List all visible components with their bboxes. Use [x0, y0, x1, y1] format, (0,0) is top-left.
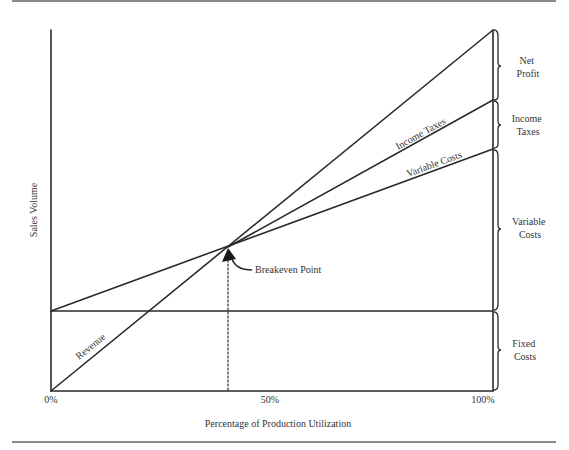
revenue-line [51, 30, 493, 391]
fixed-costs-bracket-label: Fixed Costs [512, 338, 537, 362]
income-taxes-line-label: Income Taxes [394, 115, 448, 152]
income-taxes-brace-icon [494, 101, 501, 148]
x-axis-title: Percentage of Production Utilization [205, 418, 351, 429]
y-axis-title: Sales Volume [28, 182, 39, 237]
income-taxes-line [228, 100, 493, 247]
income-taxes-bracket-label: Income Taxes [512, 113, 545, 137]
brackets [494, 30, 501, 390]
breakeven-arrow-icon [222, 248, 252, 270]
revenue-line-label: Revenue [73, 331, 108, 362]
breakeven-point-label: Breakeven Point [255, 264, 322, 275]
x-tick-0: 0% [44, 394, 57, 405]
net-profit-brace-icon [494, 30, 501, 100]
variable-costs-line [51, 149, 493, 311]
x-tick-50: 50% [261, 394, 279, 405]
breakeven-chart: Net Profit Income Taxes Variable Costs F… [0, 0, 569, 450]
net-profit-label: Net Profit [517, 55, 540, 79]
variable-costs-brace-icon [494, 150, 501, 310]
x-tick-100: 100% [471, 394, 494, 405]
variable-costs-bracket-label: Variable Costs [512, 216, 548, 240]
fixed-costs-brace-icon [494, 312, 501, 390]
